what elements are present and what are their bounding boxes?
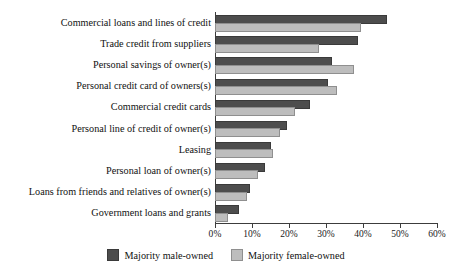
bar-female-owned xyxy=(215,65,354,74)
x-tick-label: 30% xyxy=(317,229,335,239)
x-tick-label: 60% xyxy=(428,229,446,239)
category-label: Government loans and grants xyxy=(0,207,211,218)
legend-label: Majority male-owned xyxy=(124,250,213,261)
bar-female-owned xyxy=(215,86,337,95)
bar-female-owned xyxy=(215,44,319,53)
bar-group xyxy=(215,33,437,54)
category-label: Personal credit card of owners(s) xyxy=(0,80,211,91)
chart-legend: Majority male-ownedMajority female-owned xyxy=(0,249,452,261)
legend-label: Majority female-owned xyxy=(248,250,344,261)
x-tick-label: 10% xyxy=(243,229,261,239)
bar-female-owned xyxy=(215,107,295,116)
category-label: Personal line of credit of owner(s) xyxy=(0,123,211,134)
bar-group xyxy=(215,160,437,181)
category-label: Loans from friends and relatives of owne… xyxy=(0,186,211,197)
category-label: Trade credit from suppliers xyxy=(0,38,211,49)
bar-group xyxy=(215,12,437,33)
grouped-bar-chart: Commercial loans and lines of creditTrad… xyxy=(0,0,452,278)
legend-swatch-female xyxy=(231,249,243,261)
bar-group xyxy=(215,139,437,160)
bar-female-owned xyxy=(215,23,361,32)
x-tick-label: 0% xyxy=(209,229,222,239)
category-label: Commercial credit cards xyxy=(0,101,211,112)
x-tick-mark xyxy=(400,224,401,228)
x-tick-mark xyxy=(252,224,253,228)
category-label: Personal loan of owner(s) xyxy=(0,165,211,176)
bar-female-owned xyxy=(215,128,280,137)
bar-group xyxy=(215,118,437,139)
category-axis-labels: Commercial loans and lines of creditTrad… xyxy=(0,12,211,223)
bar-female-owned xyxy=(215,213,228,222)
bar-female-owned xyxy=(215,192,247,201)
x-tick-mark xyxy=(215,224,216,228)
bar-group xyxy=(215,75,437,96)
x-tick-label: 40% xyxy=(354,229,372,239)
bar-group xyxy=(215,202,437,223)
x-tick-label: 20% xyxy=(280,229,298,239)
category-label: Commercial loans and lines of credit xyxy=(0,17,211,28)
x-tick-mark xyxy=(326,224,327,228)
legend-item: Majority male-owned xyxy=(107,249,213,261)
plot-area xyxy=(215,12,437,223)
bar-group xyxy=(215,54,437,75)
bar-female-owned xyxy=(215,149,273,158)
x-tick-label: 50% xyxy=(391,229,409,239)
bar-group xyxy=(215,96,437,117)
x-tick-mark xyxy=(289,224,290,228)
bar-group xyxy=(215,181,437,202)
legend-swatch-male xyxy=(107,249,119,261)
category-label: Leasing xyxy=(0,144,211,155)
x-tick-mark xyxy=(363,224,364,228)
bar-female-owned xyxy=(215,170,258,179)
category-label: Personal savings of owner(s) xyxy=(0,59,211,70)
x-tick-mark xyxy=(437,224,438,228)
legend-item: Majority female-owned xyxy=(231,249,344,261)
